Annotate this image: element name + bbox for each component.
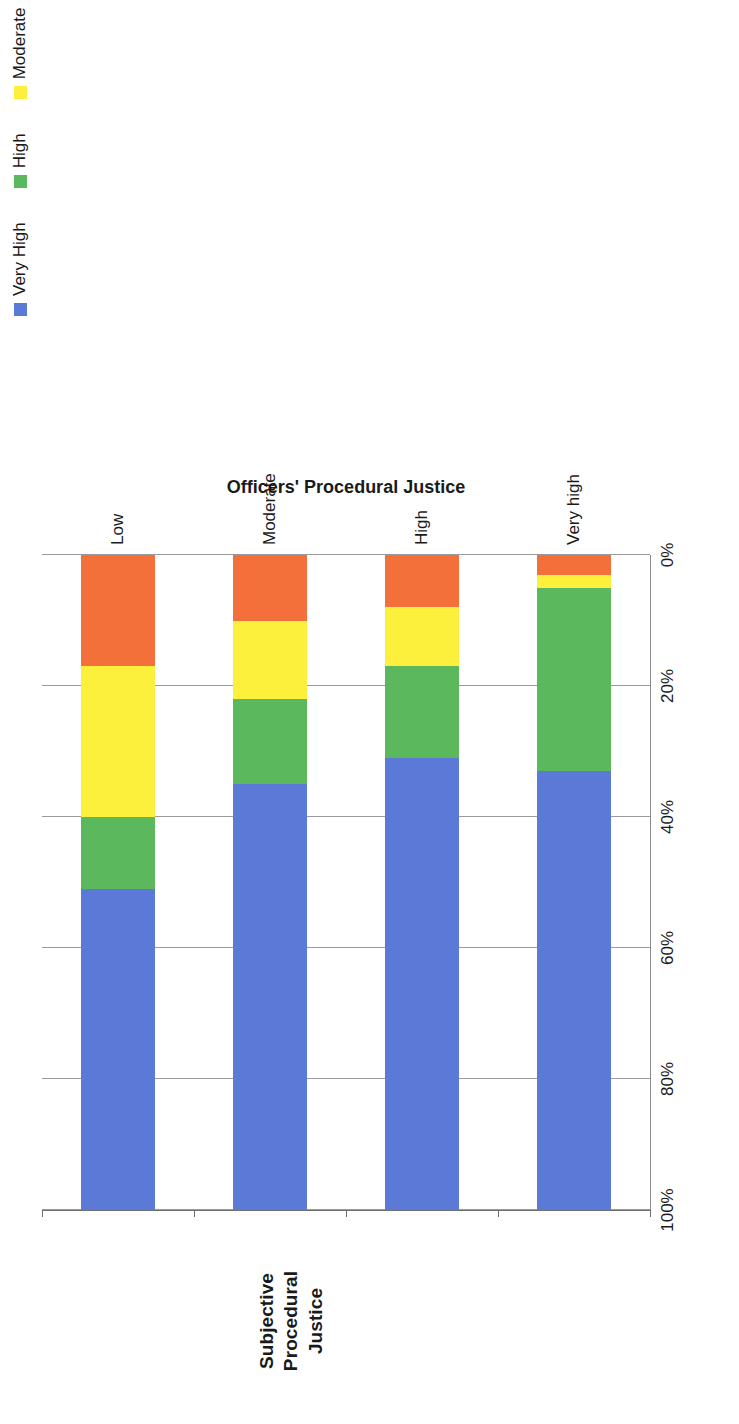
value-axis-tick-label: 60% [658,931,678,965]
stacked-bar-chart: Subjective Procedural Justice 0%20%40%60… [0,0,739,1424]
legend: Very HighHighModerateLow [10,16,30,316]
bar-segment [233,555,307,621]
bar-group [42,555,650,1210]
legend-swatch-icon [14,303,27,316]
legend-item: Moderate [10,8,30,100]
bar-segment [537,555,611,575]
bar-segment [81,817,155,889]
legend-item: Very High [10,222,30,316]
bar-segment [81,555,155,666]
category-axis-tick [42,1210,43,1217]
value-axis-title-line1: Subjective Procedural [255,1226,304,1416]
value-axis-title: Subjective Procedural Justice [255,1226,328,1416]
category-axis-tick-label: Low [108,514,128,545]
value-axis-title-line2: Justice [304,1226,328,1416]
value-axis-tick-label: 40% [658,800,678,834]
legend-swatch-icon [14,86,27,99]
bar-segment [385,758,459,1210]
bar [385,555,459,1210]
category-axis-tick [194,1210,195,1217]
bar-segment [537,771,611,1210]
bar-segment [385,607,459,666]
legend-item: High [10,133,30,188]
category-axis-tick [498,1210,499,1217]
bar-segment [81,666,155,817]
value-axis-tick-label: 0% [658,543,678,568]
legend-label: High [10,133,30,168]
value-axis-tick-labels: 0%20%40%60%80%100% [654,555,684,1210]
rotated-page-wrapper: Subjective Procedural Justice 0%20%40%60… [0,0,739,1424]
category-axis-tick [346,1210,347,1217]
bar-segment [537,588,611,771]
legend-swatch-icon [14,175,27,188]
bar-segment [385,555,459,607]
value-axis-tick-label: 20% [658,669,678,703]
legend-label: Moderate [10,8,30,80]
bar [537,555,611,1210]
category-axis-tick-label: High [412,510,432,545]
plot-area [42,555,650,1210]
bar-segment [537,575,611,588]
bar-segment [233,784,307,1210]
value-axis-line [650,555,651,1211]
bar-segment [233,699,307,784]
category-axis-tick [650,1210,651,1217]
bar-segment [233,621,307,700]
value-axis-tick-label: 100% [658,1188,678,1231]
legend-label: Very High [10,222,30,296]
bar-segment [81,889,155,1210]
bar [233,555,307,1210]
bar-segment [385,666,459,758]
bar [81,555,155,1210]
category-axis-title: Officers' Procedural Justice [42,477,650,498]
value-axis-tick-label: 80% [658,1062,678,1096]
